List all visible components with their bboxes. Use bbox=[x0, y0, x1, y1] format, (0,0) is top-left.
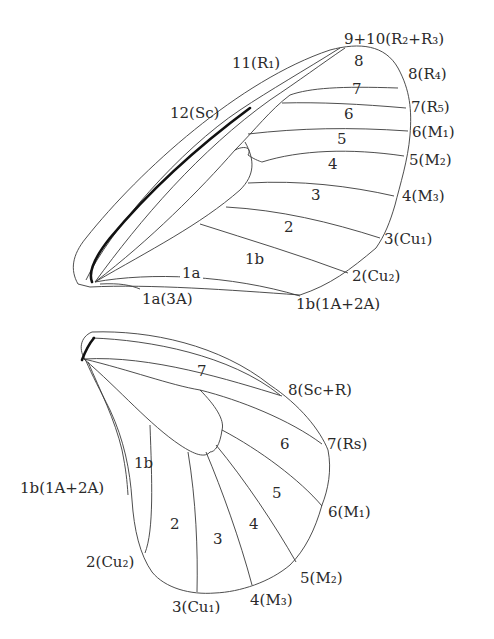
hindwing-cell-label-5: 5 bbox=[272, 486, 282, 501]
hindwing-vein-label-8: 8(Sc+R) bbox=[288, 383, 352, 398]
forewing-cell-label-6: 6 bbox=[344, 107, 354, 122]
forewing-cell-label-4: 4 bbox=[328, 157, 338, 172]
forewing-vein-label-1a: 1a(3A) bbox=[142, 292, 193, 307]
hindwing-vein-label-3: 3(Cu₁) bbox=[172, 600, 220, 615]
forewing-vein-label-1b: 1b(1A+2A) bbox=[296, 297, 380, 312]
forewing-cell-label-7: 7 bbox=[352, 82, 362, 97]
forewing-cell-label-1b: 1b bbox=[245, 252, 264, 267]
hindwing-cell-label-1b: 1b bbox=[134, 456, 153, 471]
forewing-vein-label-5: 5(M₂) bbox=[409, 153, 452, 168]
hindwing-cell-label-6: 6 bbox=[280, 437, 290, 452]
forewing-vein-label-7: 7(R₅) bbox=[411, 100, 450, 115]
forewing-vein-label-2: 2(Cu₂) bbox=[352, 269, 400, 284]
forewing-vein-label-11: 11(R₁) bbox=[232, 56, 280, 71]
forewing-cell-label-3: 3 bbox=[311, 188, 321, 203]
hindwing-vein-label-6: 6(M₁) bbox=[328, 505, 371, 520]
wing-venation-diagram: 9+10(R₂+R₃) 11(R₁) 12(Sc) 8(R₄) 7(R₅) 6(… bbox=[0, 0, 494, 639]
forewing-cell-label-1a: 1a bbox=[180, 266, 203, 281]
hindwing-vein-label-4: 4(M₃) bbox=[250, 593, 293, 608]
hindwing-cell-label-3: 3 bbox=[213, 532, 223, 547]
forewing-vein-label-12: 12(Sc) bbox=[170, 106, 219, 121]
forewing-vein-label-4: 4(M₃) bbox=[402, 189, 445, 204]
forewing-vein-label-3: 3(Cu₁) bbox=[384, 232, 432, 247]
forewing-cell-label-8: 8 bbox=[354, 54, 364, 69]
hindwing-vein-label-7: 7(Rs) bbox=[327, 437, 367, 452]
hindwing-vein-label-1b: 1b(1A+2A) bbox=[20, 481, 104, 496]
hindwing-vein-label-2: 2(Cu₂) bbox=[86, 555, 134, 570]
hindwing-cell-label-2: 2 bbox=[170, 517, 180, 532]
wing-drawing bbox=[0, 0, 494, 639]
forewing-vein-label-6: 6(M₁) bbox=[412, 125, 455, 140]
forewing-vein-label-9-10: 9+10(R₂+R₃) bbox=[344, 32, 444, 47]
forewing-cell-label-5: 5 bbox=[337, 132, 347, 147]
hindwing-vein-label-5: 5(M₂) bbox=[300, 571, 343, 586]
hindwing-cell-label-4: 4 bbox=[249, 517, 259, 532]
forewing-vein-label-8: 8(R₄) bbox=[408, 67, 447, 82]
forewing-cell-label-2: 2 bbox=[284, 220, 294, 235]
hindwing-cell-label-7: 7 bbox=[197, 364, 207, 379]
